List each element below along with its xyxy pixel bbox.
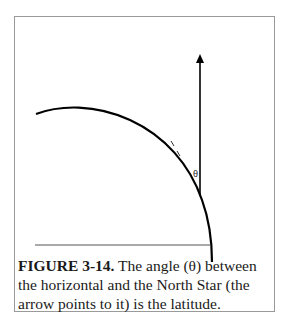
tangent-dash-1 xyxy=(171,141,174,146)
figure-caption: FIGURE 3-14. The angle (θ) between the h… xyxy=(18,256,274,313)
theta-label: θ xyxy=(193,169,198,179)
arrow-head-icon xyxy=(196,54,204,63)
earth-surface-curve xyxy=(36,108,212,262)
figure-label: FIGURE 3-14. xyxy=(18,257,114,274)
